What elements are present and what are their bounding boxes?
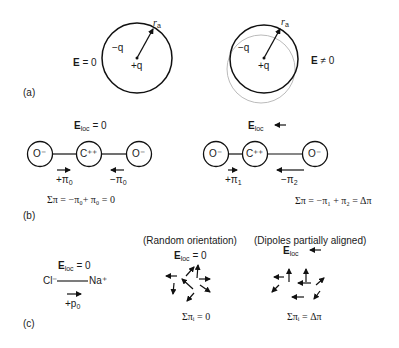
positive-charge-label: +q bbox=[258, 61, 269, 71]
dipole-left-label: +π0 bbox=[56, 175, 73, 186]
negative-charge-label: −q bbox=[238, 43, 249, 53]
local-field-label: Eloc bbox=[283, 246, 299, 257]
chloride-label: Cl⁻ bbox=[43, 276, 57, 286]
atom-unpolarized bbox=[102, 23, 172, 93]
oxygen-atom-label: O⁻ bbox=[209, 149, 222, 159]
aligned-dipoles bbox=[272, 250, 324, 299]
panel-c-label: (c) bbox=[23, 319, 35, 329]
oxygen-atom-label: O⁻ bbox=[33, 149, 46, 159]
aligned-sum-equation: Σπᵢ = Δπ bbox=[287, 312, 322, 322]
random-dipoles bbox=[166, 265, 210, 301]
positive-charge-label: +q bbox=[131, 61, 142, 71]
random-orientation-title: (Random orientation) bbox=[143, 236, 237, 246]
carbon-atom-label: C⁺⁺ bbox=[246, 149, 263, 159]
dipole-sum-equation: Σπ = −π₀+ π₀ = 0 bbox=[47, 195, 115, 205]
field-label-nonzero: E ≠ 0 bbox=[311, 56, 334, 66]
local-field-label: Eloc = 0 bbox=[58, 261, 91, 272]
sodium-label: Na⁺ bbox=[89, 276, 107, 286]
carbon-atom-label: C⁺⁺ bbox=[80, 149, 97, 159]
local-field-label: Eloc bbox=[248, 121, 264, 132]
random-sum-equation: Σπᵢ = 0 bbox=[182, 312, 210, 322]
radius-label: ra bbox=[153, 18, 161, 29]
aligned-dipoles-title: (Dipoles partially aligned) bbox=[254, 236, 366, 246]
negative-charge-label: −q bbox=[112, 43, 123, 53]
dipole-right-label: −π0 bbox=[110, 175, 127, 186]
panel-b-label: (b) bbox=[23, 211, 35, 221]
dipole-left-label: +π1 bbox=[225, 175, 242, 186]
ionic-dipole-label: +p0 bbox=[65, 299, 80, 310]
panel-a-label: (a) bbox=[23, 88, 35, 98]
nacl-dipole bbox=[57, 281, 88, 294]
local-field-label: Eloc = 0 bbox=[74, 121, 107, 132]
dipole-right-label: −π2 bbox=[281, 175, 298, 186]
field-label-zero: E = 0 bbox=[73, 58, 97, 68]
local-field-label: Eloc = 0 bbox=[174, 251, 207, 262]
oxygen-atom-label: O⁻ bbox=[308, 149, 321, 159]
radius-label: ra bbox=[281, 17, 289, 28]
oxygen-atom-label: O⁻ bbox=[132, 149, 145, 159]
dipole-sum-equation: Σπ = −π₁ + π₂ = Δπ bbox=[295, 196, 371, 206]
